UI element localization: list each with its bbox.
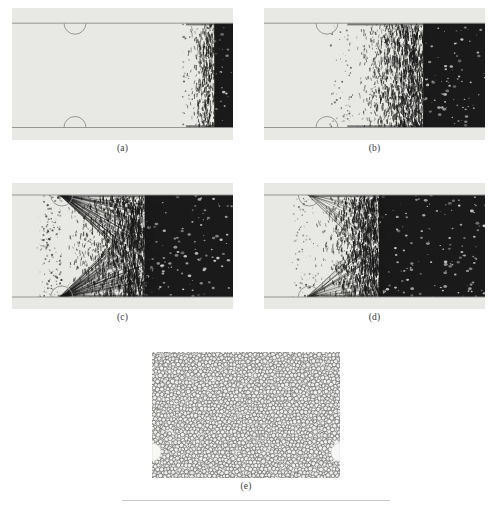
panel-b-canvas bbox=[264, 8, 485, 140]
panel-e-particle-packing bbox=[152, 352, 340, 478]
figure-root: (a)(b)(c)(d)(e) bbox=[0, 0, 494, 505]
panel-c-canvas bbox=[12, 183, 233, 309]
panel-e-label: (e) bbox=[152, 481, 340, 491]
panel-a-label: (a) bbox=[12, 143, 233, 153]
panel-c-label: (c) bbox=[12, 312, 233, 322]
panel-b-label: (b) bbox=[264, 143, 485, 153]
panel-d-label: (d) bbox=[264, 312, 485, 322]
panel-d-canvas bbox=[264, 183, 485, 309]
panel-e-canvas bbox=[152, 352, 340, 478]
bottom-rule-artifact bbox=[122, 500, 390, 501]
panel-c bbox=[12, 183, 233, 309]
panel-d bbox=[264, 183, 485, 309]
panel-e bbox=[152, 352, 340, 478]
panel-a-canvas bbox=[12, 8, 233, 140]
panel-b bbox=[264, 8, 485, 140]
panel-a bbox=[12, 8, 233, 140]
